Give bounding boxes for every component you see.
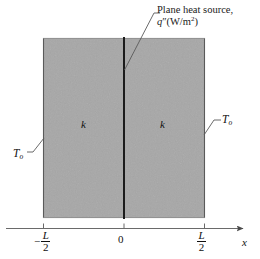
axis-tick-label-pos-half-l: L2 xyxy=(197,230,206,254)
surface-temp-label-right: To xyxy=(222,113,232,125)
heat-source-label-line2: q″(W/m2) xyxy=(157,16,233,27)
axis-tick-pos-denominator: 2 xyxy=(197,242,206,254)
x-axis-label: x xyxy=(242,237,247,249)
conductivity-label-left: k xyxy=(81,119,86,131)
surface-temp-label-left: To xyxy=(13,147,23,159)
axis-tick-neg-denominator: 2 xyxy=(41,242,50,254)
surface-temp-left-subscript: o xyxy=(19,152,23,161)
heat-source-label-line1: Plane heat source, xyxy=(157,4,233,15)
surface-temp-right-subscript: o xyxy=(228,118,232,127)
axis-tick-neg-sign: − xyxy=(34,236,40,248)
surface-temp-left-leader-line xyxy=(27,138,44,152)
diagram-canvas xyxy=(0,0,260,259)
heat-source-units-open: (W/m xyxy=(166,16,191,27)
x-axis xyxy=(6,224,243,229)
heat-transfer-diagram: Plane heat source, q″(W/m2) k k To To −L… xyxy=(0,0,260,259)
heat-source-units-close: ) xyxy=(194,16,198,27)
axis-tick-label-origin: 0 xyxy=(118,234,124,246)
heat-source-label: Plane heat source, q″(W/m2) xyxy=(157,4,233,27)
surface-temp-right-leader-line xyxy=(204,120,221,135)
axis-tick-label-neg-half-l: −L2 xyxy=(34,230,50,254)
conductivity-label-right: k xyxy=(160,119,165,131)
